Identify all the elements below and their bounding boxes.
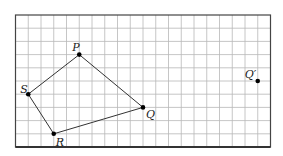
vertex-label: S <box>20 83 28 96</box>
vertex-label: Q <box>146 108 155 121</box>
vertex-dot <box>141 105 146 110</box>
vertex-label: R <box>55 136 64 149</box>
grid-diagram: PQRSQ′ <box>0 0 283 156</box>
vertex-label: P <box>71 41 80 54</box>
vertex-label: Q′ <box>245 68 257 81</box>
point-s: S <box>20 83 30 96</box>
grid-lines <box>16 15 271 147</box>
